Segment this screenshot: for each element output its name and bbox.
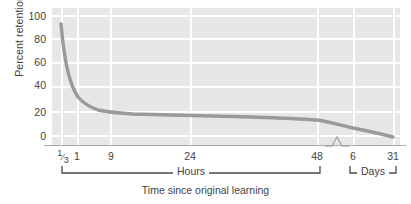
plot-area <box>52 8 400 145</box>
days-bracket-label: Days <box>357 165 389 177</box>
x-tick-label-6: 6 <box>350 150 356 162</box>
x-axis-line <box>44 145 406 146</box>
axis-break-icon <box>325 136 349 147</box>
forgetting-curve-chart: Percent retention 100 80 60 40 20 0 1⁄3 … <box>0 0 411 204</box>
y-tick-label-20: 20 <box>16 106 46 118</box>
x-tick-label-24: 24 <box>184 150 196 162</box>
x-tick-label-9: 9 <box>108 150 114 162</box>
x-axis-title: Time since original learning <box>0 184 411 196</box>
hours-bracket-label: Hours <box>173 165 209 177</box>
y-tick-label-40: 40 <box>16 79 46 91</box>
y-tick-label-80: 80 <box>16 33 46 45</box>
y-tick-label-0: 0 <box>16 130 46 142</box>
x-tick-label-31: 31 <box>387 150 399 162</box>
y-tick-label-60: 60 <box>16 56 46 68</box>
x-tick-label-1: 1 <box>74 150 80 162</box>
y-tick-label-100: 100 <box>16 10 46 22</box>
x-tick-label-48: 48 <box>311 150 323 162</box>
retention-curve <box>52 8 400 145</box>
